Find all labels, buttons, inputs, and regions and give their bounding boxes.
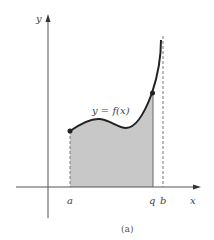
x-axis-label: x (190, 195, 196, 206)
point-at-q (150, 91, 155, 96)
curve-label: y = f(x) (91, 105, 130, 116)
tick-label-b: b (160, 195, 166, 206)
tick-label-q: q (149, 195, 155, 206)
y-axis-arrow-icon (46, 14, 51, 22)
tick-label-a: a (67, 195, 73, 206)
point-at-a (68, 129, 73, 134)
y-axis-label: y (35, 13, 42, 24)
area-under-curve-diagram: y x y = f(x) a q b (a) (0, 0, 214, 240)
figure-caption: (a) (121, 224, 133, 234)
x-axis-arrow-icon (193, 185, 201, 190)
